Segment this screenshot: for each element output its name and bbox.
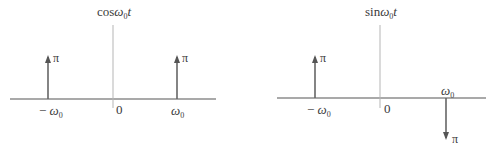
sin-tick-neg-sub: 0 [327, 110, 331, 119]
cos-tick-neg-var: ω [50, 103, 59, 118]
cos-tick-neg-sign: − [39, 103, 46, 118]
diagram-canvas [0, 0, 489, 154]
sin-title-func: sin [365, 4, 380, 19]
sin-tick-pos-var: ω [441, 83, 450, 98]
sin-impulse-pos-label: π [452, 133, 458, 146]
cos-title-omega: ω [114, 4, 123, 19]
sin-title: sinω0t [365, 5, 397, 23]
sin-tick-pos-sub: 0 [450, 91, 454, 100]
cos-impulse-neg-label: π [53, 52, 59, 65]
sin-tick-neg-var: ω [318, 102, 327, 117]
cos-tick-neg-omega0: − ω0 [39, 104, 63, 122]
cos-tick-pos-var: ω [171, 103, 180, 118]
cos-tick-pos-omega0: ω0 [171, 104, 184, 122]
sin-title-omega: ω [380, 4, 389, 19]
cos-impulse-pos-label: π [182, 52, 188, 65]
sin-title-t: t [393, 4, 397, 19]
sin-tick-pos-omega0: ω0 [441, 84, 454, 102]
cos-tick-neg-sub: 0 [59, 111, 63, 120]
cos-title-t: t [128, 4, 132, 19]
cos-spectrum-plot [10, 25, 216, 108]
sin-spectrum-plot [277, 25, 486, 140]
cos-title-func: cos [97, 4, 114, 19]
sin-tick-neg-sign: − [307, 102, 314, 117]
cos-tick-pos-sub: 0 [180, 111, 184, 120]
cos-tick-zero: 0 [116, 103, 123, 116]
cos-title: cosω0t [97, 5, 131, 23]
sin-tick-neg-omega0: − ω0 [307, 103, 331, 121]
sin-impulse-neg-label: π [320, 52, 326, 65]
sin-tick-zero: 0 [384, 102, 391, 115]
